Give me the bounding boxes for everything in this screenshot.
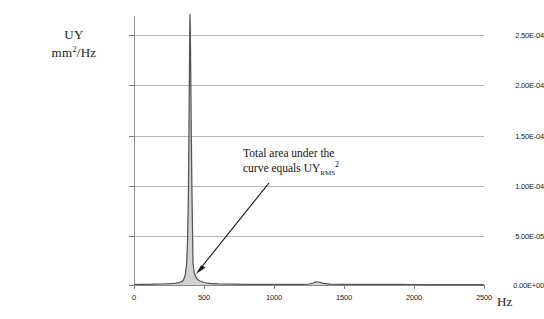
- annotation-line-1: Total area under the: [243, 146, 403, 161]
- x-tick-mark-1000: [274, 285, 275, 289]
- y-axis-line: [134, 16, 135, 286]
- x-axis-unit-label: Hz: [497, 294, 513, 310]
- annotation-line-2-prefix: curve equals UY: [243, 162, 320, 174]
- psd-chart-figure: UY mm2/Hz 2.50E-04 2.00E-04 1.50E-04 1.0…: [0, 0, 544, 319]
- annotation-line-2: curve equals UYRMS2: [243, 161, 403, 176]
- gridline-100e4: [134, 186, 484, 187]
- x-tick-label-1500: 1500: [324, 293, 364, 302]
- x-tick-label-500: 500: [184, 293, 224, 302]
- annotation-text: Total area under the curve equals UYRMS2: [243, 146, 403, 176]
- y-axis-title-unit-suffix: /Hz: [77, 45, 97, 60]
- y-axis-title: UY mm2/Hz: [28, 26, 120, 62]
- x-tick-mark-500: [204, 285, 205, 289]
- annotation-rms-subscript: RMS: [320, 169, 335, 177]
- annotation-square-exponent: 2: [335, 160, 339, 169]
- y-axis-title-line1: UY: [28, 26, 120, 44]
- y-tick-mark-250e4: [129, 35, 135, 36]
- x-tick-mark-0: [134, 285, 135, 289]
- gridline-150e4: [134, 136, 484, 137]
- gridline-250e4: [134, 35, 484, 36]
- y-tick-mark-100e4: [129, 186, 135, 187]
- x-tick-label-1000: 1000: [254, 293, 294, 302]
- y-tick-mark-500e5: [129, 236, 135, 237]
- gridline-200e4: [134, 85, 484, 86]
- y-axis-title-line2: mm2/Hz: [28, 44, 120, 62]
- x-tick-label-2000: 2000: [394, 293, 434, 302]
- x-axis-line: [134, 285, 484, 286]
- gridline-500e5: [134, 236, 484, 237]
- x-tick-mark-2500: [484, 285, 485, 289]
- x-tick-mark-2000: [414, 285, 415, 289]
- x-tick-label-0: 0: [114, 293, 154, 302]
- y-axis-title-unit-prefix: mm: [52, 45, 73, 60]
- y-tick-mark-200e4: [129, 85, 135, 86]
- y-tick-mark-150e4: [129, 136, 135, 137]
- x-tick-mark-1500: [344, 285, 345, 289]
